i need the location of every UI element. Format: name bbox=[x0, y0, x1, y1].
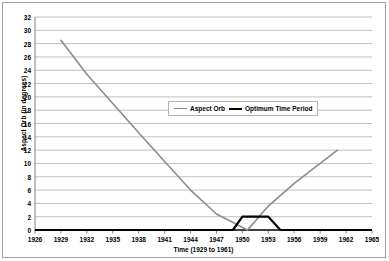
aspect-orb-line-swatch-icon bbox=[174, 108, 187, 109]
x-tick-label: 1950 bbox=[235, 236, 249, 243]
x-tick-label: 1965 bbox=[365, 236, 379, 243]
y-tick-label: 6 bbox=[10, 187, 31, 194]
x-tick-label: 1953 bbox=[261, 236, 275, 243]
x-tick-label: 1935 bbox=[106, 236, 120, 243]
x-tick-label: 1962 bbox=[339, 236, 353, 243]
x-tick-label: 1932 bbox=[80, 236, 94, 243]
x-tick-label: 1926 bbox=[28, 236, 42, 243]
y-tick-label: 2 bbox=[10, 213, 31, 220]
x-tick-label: 1959 bbox=[313, 236, 327, 243]
x-tick-label: 1941 bbox=[157, 236, 171, 243]
x-tick-label: 1944 bbox=[183, 236, 197, 243]
x-axis-title: Time (1929 to 1961) bbox=[35, 246, 372, 253]
x-tick-label: 1929 bbox=[54, 236, 68, 243]
chart-container: 02468101214161820222426283032 1926192919… bbox=[0, 0, 389, 261]
chart-legend: Aspect Orb Optimum Time Period bbox=[168, 101, 318, 116]
gridlines-group bbox=[35, 17, 372, 230]
optimum-time-period-line-swatch-icon bbox=[229, 108, 242, 110]
y-axis-title: Aspect Orb (in degrees) bbox=[20, 44, 27, 184]
series-line-optimum-time-period bbox=[35, 217, 372, 230]
y-tick-label: 32 bbox=[10, 14, 31, 21]
legend-label-aspect-orb: Aspect Orb bbox=[190, 105, 225, 112]
legend-label-optimum-time-period: Optimum Time Period bbox=[245, 105, 312, 112]
x-tick-label: 1938 bbox=[131, 236, 145, 243]
y-tick-label: 4 bbox=[10, 200, 31, 207]
y-tick-label: 0 bbox=[10, 227, 31, 234]
legend-item-aspect-orb: Aspect Orb bbox=[174, 105, 225, 112]
chart-plot-area bbox=[0, 0, 389, 261]
x-tick-label: 1956 bbox=[287, 236, 301, 243]
series-line-aspect-orb bbox=[61, 40, 338, 230]
legend-item-optimum-time-period: Optimum Time Period bbox=[229, 105, 312, 112]
y-tick-label: 30 bbox=[10, 27, 31, 34]
x-tick-label: 1947 bbox=[209, 236, 223, 243]
